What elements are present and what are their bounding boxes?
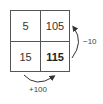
arrows-layer — [0, 0, 103, 104]
arrow-right-icon — [24, 75, 53, 82]
arrow-label-minus: −10 — [83, 37, 97, 46]
arrow-label-plus: +100 — [29, 85, 47, 94]
arrow-up-icon — [72, 28, 79, 58]
